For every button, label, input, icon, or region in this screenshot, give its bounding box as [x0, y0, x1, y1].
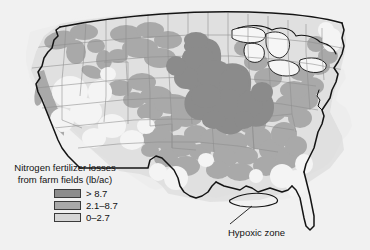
legend-label-high: > 8.7	[86, 188, 128, 199]
legend-swatch-mid	[54, 201, 81, 210]
legend-swatch-low	[54, 213, 81, 222]
legend-item-high: > 8.7	[2, 188, 128, 199]
nitrogen-loss-map-figure: Nitrogen fertilizer losses from farm fie…	[0, 0, 370, 250]
legend-title-line1: Nitrogen fertilizer losses	[2, 162, 128, 174]
legend-item-mid: 2.1–8.7	[2, 200, 128, 211]
legend-title-line2: from farm fields (lb/ac)	[2, 174, 128, 186]
legend-item-low: 0–2.7	[2, 212, 128, 223]
legend-label-mid: 2.1–8.7	[86, 200, 128, 211]
legend-swatch-high	[54, 189, 81, 198]
hypoxic-zone-label: Hypoxic zone	[228, 227, 285, 238]
legend-label-low: 0–2.7	[86, 212, 128, 223]
map-legend: Nitrogen fertilizer losses from farm fie…	[2, 162, 128, 224]
legend-class-list: > 8.7 2.1–8.7 0–2.7	[2, 188, 128, 223]
